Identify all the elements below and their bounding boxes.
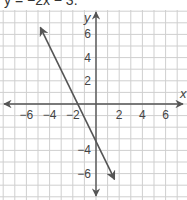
y-tick-label: −6 [77, 167, 91, 181]
x-tick-label: −2 [66, 108, 80, 122]
x-axis-label: x [179, 86, 187, 101]
x-tick-label: 4 [139, 108, 146, 122]
x-tick-label: −4 [43, 108, 57, 122]
y-tick-label: 4 [84, 51, 91, 65]
coordinate-plane: xy−6−4−2246642−4−6 [0, 0, 187, 200]
y-tick-label: 6 [84, 27, 91, 41]
x-tick-label: 6 [162, 108, 169, 122]
grid [0, 10, 187, 200]
x-tick-label: 2 [116, 108, 123, 122]
y-tick-label: 2 [84, 74, 91, 88]
y-tick-label: −4 [77, 143, 91, 157]
x-tick-label: −6 [20, 108, 34, 122]
